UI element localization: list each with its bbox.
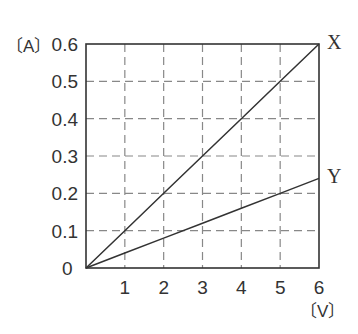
origin-label: 0: [62, 258, 73, 279]
x-tick-label: 4: [236, 277, 247, 298]
chart: 0.10.20.30.40.50.6 123456 〔A〕 〔V〕 0 XY: [0, 0, 358, 334]
series-label-y: Y: [327, 165, 341, 187]
x-tick-label: 1: [120, 277, 131, 298]
y-tick-label: 0.1: [52, 221, 78, 242]
y-axis-tick-labels: 0.10.20.30.40.50.6: [52, 34, 79, 242]
y-tick-label: 0.3: [52, 146, 78, 167]
y-tick-label: 0.4: [52, 109, 79, 130]
series-labels: XY: [327, 31, 342, 187]
x-axis-unit-label: 〔V〕: [300, 302, 345, 321]
x-tick-label: 5: [275, 277, 286, 298]
x-tick-label: 2: [158, 277, 169, 298]
series-label-x: X: [327, 31, 342, 53]
y-tick-label: 0.2: [52, 183, 78, 204]
y-tick-label: 0.5: [52, 71, 78, 92]
x-tick-label: 3: [197, 277, 208, 298]
y-tick-label: 0.6: [52, 34, 78, 55]
y-axis-unit-label: 〔A〕: [6, 37, 51, 56]
x-tick-label: 6: [314, 277, 325, 298]
x-axis-tick-labels: 123456: [120, 277, 325, 298]
